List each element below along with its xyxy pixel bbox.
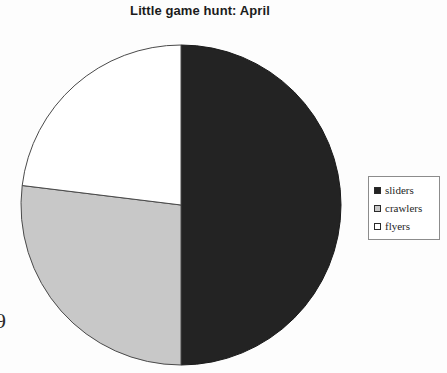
legend-swatch-flyers: [374, 223, 381, 230]
chart-legend: sliders crawlers flyers: [368, 176, 440, 240]
pie-slice-sliders[interactable]: [181, 45, 341, 365]
legend-item-sliders[interactable]: sliders: [374, 182, 435, 198]
legend-swatch-crawlers: [374, 205, 381, 212]
legend-label-flyers: flyers: [385, 221, 410, 232]
pie-chart-figure: Little game hunt: April sliders crawlers…: [0, 0, 447, 373]
pie-plot-area: [0, 0, 360, 373]
legend-label-crawlers: crawlers: [385, 203, 422, 214]
pie-slice-crawlers[interactable]: [21, 186, 181, 366]
pie-slice-flyers[interactable]: [22, 45, 181, 205]
legend-item-flyers[interactable]: flyers: [374, 218, 435, 234]
pie-svg: [0, 0, 360, 373]
cropped-page-number: 9: [0, 310, 6, 332]
pie-slices: [21, 45, 341, 365]
legend-item-crawlers[interactable]: crawlers: [374, 200, 435, 216]
legend-swatch-sliders: [374, 187, 381, 194]
legend-label-sliders: sliders: [385, 185, 414, 196]
